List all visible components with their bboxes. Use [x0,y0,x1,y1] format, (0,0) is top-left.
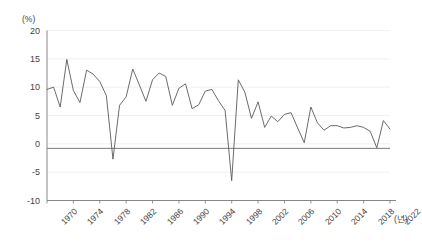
gridlines-group [47,31,390,201]
data-series-line [47,59,390,180]
